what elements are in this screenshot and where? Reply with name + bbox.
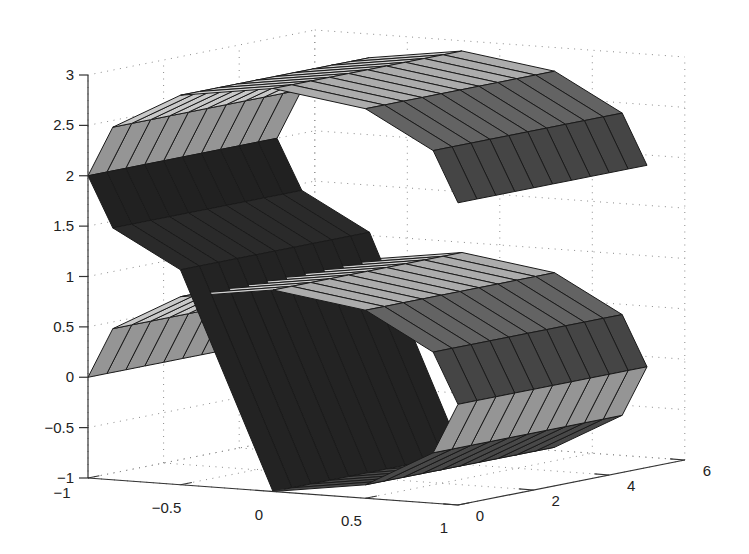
z-axis-ticks: −1−0.500.511.522.53 — [44, 66, 88, 486]
y-tick-mark — [519, 489, 534, 490]
y-tick-mark — [443, 504, 458, 505]
x-tick-label: −0.5 — [152, 499, 182, 516]
z-tick-label: 0.5 — [53, 318, 74, 335]
y-tick-label: 4 — [627, 477, 635, 494]
s-surface-mesh — [88, 51, 647, 492]
x-tick-mark — [181, 483, 192, 485]
z-tick-label: 2.5 — [53, 116, 74, 133]
surface-plot: −1−0.500.51 0246 −1−0.500.511.522.53 — [0, 0, 749, 554]
y-tick-mark — [670, 459, 685, 460]
z-tick-label: 0 — [66, 368, 74, 385]
x-tick-mark — [366, 496, 377, 498]
grid-line — [315, 30, 685, 57]
x-tick-mark — [88, 476, 99, 478]
y-axis-ticks: 0246 — [443, 459, 711, 524]
x-tick-label: 1 — [440, 519, 448, 536]
grid-line — [88, 30, 315, 75]
y-tick-label: 6 — [703, 462, 711, 479]
z-tick-label: −1 — [57, 469, 74, 486]
z-tick-label: 1.5 — [53, 217, 74, 234]
x-tick-mark — [458, 503, 469, 505]
x-tick-label: 0 — [255, 506, 263, 523]
x-axis-ticks: −1−0.500.51 — [53, 476, 469, 536]
z-tick-label: −0.5 — [44, 419, 74, 436]
y-tick-label: 2 — [551, 492, 559, 509]
x-tick-label: 0.5 — [341, 512, 362, 529]
z-tick-label: 3 — [66, 66, 74, 83]
y-tick-mark — [594, 474, 609, 475]
z-tick-label: 2 — [66, 167, 74, 184]
x-tick-label: −1 — [53, 484, 70, 501]
y-tick-label: 0 — [476, 507, 484, 524]
z-tick-label: 1 — [66, 268, 74, 285]
